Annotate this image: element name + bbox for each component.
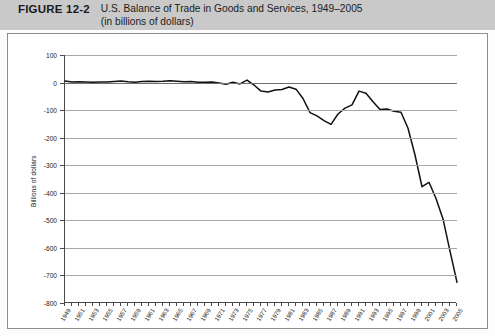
- x-tick-mark: [309, 303, 310, 306]
- x-tick-mark: [253, 303, 254, 306]
- x-tick-mark: [155, 303, 156, 306]
- trade-balance-line-series: [65, 55, 457, 303]
- x-tick-mark: [120, 303, 121, 306]
- x-tick-mark: [414, 303, 415, 306]
- x-tick-mark: [211, 303, 212, 306]
- x-tick-mark: [372, 303, 373, 306]
- x-tick-mark: [456, 303, 457, 306]
- x-tick-mark: [99, 303, 100, 306]
- y-tick-label: -400: [8, 189, 57, 196]
- y-tick-mark: [60, 110, 64, 111]
- chart-plot-wrapper: Billions of dollars 1000-100-200-300-400…: [8, 34, 489, 330]
- x-tick-mark: [267, 303, 268, 306]
- x-tick-mark: [288, 303, 289, 306]
- x-tick-mark: [295, 303, 296, 306]
- y-tick-label: 100: [8, 52, 57, 59]
- figure-title: U.S. Balance of Trade in Goods and Servi…: [101, 2, 363, 28]
- figure-header: FIGURE 12-2 U.S. Balance of Trade in Goo…: [18, 2, 489, 28]
- y-tick-mark: [60, 220, 64, 221]
- x-tick-mark: [218, 303, 219, 306]
- x-tick-mark: [246, 303, 247, 306]
- x-tick-mark: [316, 303, 317, 306]
- gridline: [65, 220, 457, 221]
- y-tick-label: -700: [8, 272, 57, 279]
- x-tick-mark: [141, 303, 142, 306]
- y-tick-label: -100: [8, 107, 57, 114]
- figure-title-line1: U.S. Balance of Trade in Goods and Servi…: [101, 2, 363, 15]
- gridline: [65, 83, 457, 84]
- figure-number-label: FIGURE 12-2: [18, 2, 90, 15]
- figure-root: FIGURE 12-2 U.S. Balance of Trade in Goo…: [0, 0, 495, 336]
- x-tick-mark: [148, 303, 149, 306]
- gridline: [65, 165, 457, 166]
- x-tick-mark: [358, 303, 359, 306]
- x-tick-mark: [274, 303, 275, 306]
- x-tick-mark: [64, 303, 65, 306]
- x-tick-mark: [365, 303, 366, 306]
- x-tick-mark: [106, 303, 107, 306]
- x-tick-mark: [379, 303, 380, 306]
- gridline: [65, 275, 457, 276]
- y-tick-mark: [60, 138, 64, 139]
- x-tick-mark: [204, 303, 205, 306]
- x-tick-mark: [428, 303, 429, 306]
- x-tick-mark: [197, 303, 198, 306]
- x-tick-mark: [386, 303, 387, 306]
- y-tick-label: -800: [8, 300, 57, 307]
- x-tick-mark: [176, 303, 177, 306]
- x-tick-mark: [449, 303, 450, 306]
- x-tick-mark: [183, 303, 184, 306]
- x-tick-mark: [302, 303, 303, 306]
- figure-title-line2: (in billions of dollars): [101, 15, 363, 28]
- x-tick-mark: [225, 303, 226, 306]
- y-tick-mark: [60, 165, 64, 166]
- x-tick-mark: [85, 303, 86, 306]
- plot-area: [64, 55, 456, 303]
- x-tick-mark: [400, 303, 401, 306]
- gridline: [65, 193, 457, 194]
- x-tick-mark: [71, 303, 72, 306]
- y-tick-mark: [60, 193, 64, 194]
- x-tick-mark: [435, 303, 436, 306]
- x-tick-mark: [337, 303, 338, 306]
- x-tick-mark: [393, 303, 394, 306]
- y-tick-mark: [60, 248, 64, 249]
- y-tick-label: -500: [8, 217, 57, 224]
- gridline: [65, 138, 457, 139]
- x-tick-mark: [127, 303, 128, 306]
- x-tick-mark: [344, 303, 345, 306]
- x-tick-mark: [190, 303, 191, 306]
- x-tick-mark: [92, 303, 93, 306]
- figure-header-band: FIGURE 12-2 U.S. Balance of Trade in Goo…: [0, 0, 495, 30]
- x-tick-mark: [421, 303, 422, 306]
- x-tick-mark: [351, 303, 352, 306]
- x-tick-mark: [232, 303, 233, 306]
- x-tick-mark: [442, 303, 443, 306]
- y-tick-mark: [60, 275, 64, 276]
- y-tick-label: -300: [8, 162, 57, 169]
- chart-frame: Billions of dollars 1000-100-200-300-400…: [7, 33, 488, 329]
- x-tick-mark: [281, 303, 282, 306]
- x-tick-mark: [162, 303, 163, 306]
- gridline: [65, 110, 457, 111]
- y-tick-label: -200: [8, 134, 57, 141]
- x-tick-mark: [407, 303, 408, 306]
- x-tick-mark: [78, 303, 79, 306]
- x-tick-mark: [323, 303, 324, 306]
- y-tick-label: 0: [8, 79, 57, 86]
- y-tick-mark: [60, 83, 64, 84]
- gridline: [65, 55, 457, 56]
- x-tick-mark: [134, 303, 135, 306]
- x-tick-mark: [239, 303, 240, 306]
- gridline: [65, 248, 457, 249]
- x-tick-mark: [113, 303, 114, 306]
- x-tick-mark: [260, 303, 261, 306]
- x-tick-mark: [169, 303, 170, 306]
- x-tick-mark: [330, 303, 331, 306]
- y-tick-mark: [60, 55, 64, 56]
- y-tick-label: -600: [8, 244, 57, 251]
